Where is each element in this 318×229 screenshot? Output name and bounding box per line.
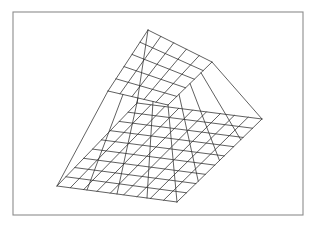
wireframe-surface-plot: 3D wireframe mesh surface plot of a trun… [0,0,318,229]
figure-root: 3D wireframe mesh surface plot of a trun… [0,0,318,229]
